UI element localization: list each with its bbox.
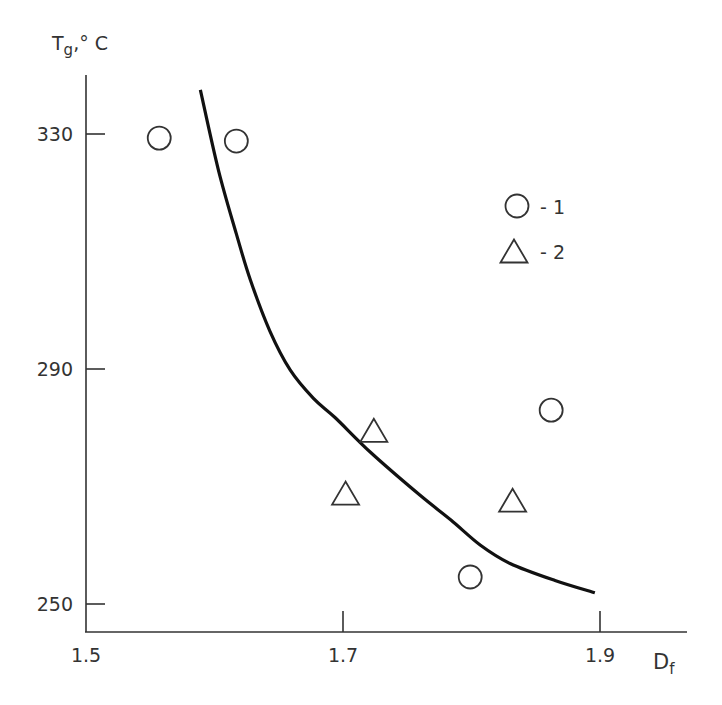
y-title-sub: g — [64, 41, 74, 59]
triangle-marker-icon — [499, 489, 526, 512]
y-tick-label-330: 330 — [13, 125, 73, 144]
x-title-sub: f — [669, 660, 674, 678]
legend-circle-icon — [506, 195, 529, 218]
legend-label-1: - 1 — [540, 198, 565, 217]
y-tick-label-250: 250 — [13, 595, 73, 614]
x-tick-label-1.9: 1.9 — [570, 646, 630, 665]
x-title-main: D — [653, 650, 669, 674]
circle-marker-icon — [148, 127, 171, 150]
fit-curve-path — [200, 90, 594, 593]
y-title-main: T — [52, 32, 64, 54]
legend-markers — [501, 195, 529, 263]
data-markers — [148, 127, 563, 589]
triangle-marker-icon — [360, 419, 387, 442]
circle-marker-icon — [540, 399, 563, 422]
legend-label-2: - 2 — [540, 243, 565, 262]
circle-marker-icon — [459, 565, 482, 588]
y-tick-label-290: 290 — [13, 360, 73, 379]
x-axis-title: Df — [653, 652, 674, 673]
x-tick-label-1.7: 1.7 — [313, 646, 373, 665]
y-title-rest: ,° C — [73, 32, 108, 54]
scatter-plot — [0, 0, 722, 705]
triangle-marker-icon — [332, 482, 359, 505]
x-tick-label-1.5: 1.5 — [56, 646, 116, 665]
axes — [85, 75, 687, 632]
y-axis-title: Tg,° C — [52, 34, 108, 53]
legend-triangle-icon — [501, 240, 528, 263]
circle-marker-icon — [225, 130, 248, 153]
fit-curve — [200, 90, 594, 593]
